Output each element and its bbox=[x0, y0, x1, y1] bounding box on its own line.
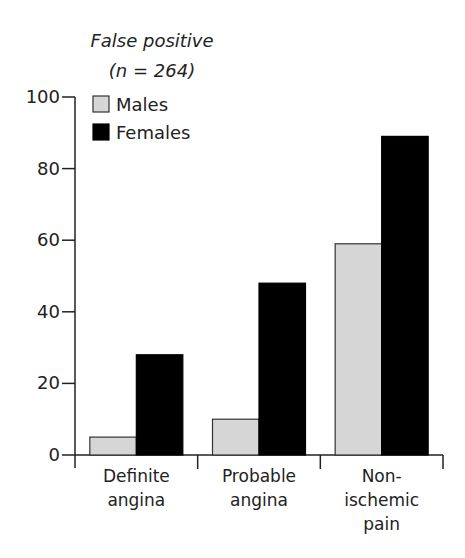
y-axis: 020406080100 bbox=[26, 86, 75, 468]
bar-females-0 bbox=[136, 355, 183, 455]
y-tick-label: 0 bbox=[49, 444, 60, 465]
y-tick-label: 80 bbox=[37, 158, 60, 179]
y-tick-label: 60 bbox=[37, 229, 60, 250]
x-axis: DefiniteanginaProbableanginaNon-ischemic… bbox=[75, 455, 443, 534]
x-category-label: Probable bbox=[222, 466, 296, 486]
bars bbox=[90, 136, 428, 455]
legend-label-males: Males bbox=[116, 94, 168, 115]
y-tick-label: 100 bbox=[26, 86, 60, 107]
bar-males-0 bbox=[90, 437, 137, 455]
legend-swatch-males bbox=[93, 96, 109, 112]
x-category-label: Definite bbox=[103, 466, 170, 486]
x-category-label: ischemic bbox=[344, 490, 419, 510]
x-category-label: pain bbox=[363, 514, 400, 534]
chart-subtitle-text: (n = 264) bbox=[109, 60, 195, 81]
legend-label-females: Females bbox=[116, 122, 190, 143]
x-category-label: angina bbox=[107, 490, 165, 510]
bar-females-2 bbox=[382, 136, 429, 455]
bar-males-2 bbox=[335, 244, 382, 455]
x-category-label: angina bbox=[230, 490, 288, 510]
legend-swatch-females bbox=[93, 124, 109, 140]
bar-males-1 bbox=[213, 419, 260, 455]
x-category-label: Non- bbox=[362, 466, 402, 486]
chart-title: False positive (n = 264) bbox=[90, 30, 213, 81]
chart-title-text: False positive bbox=[90, 30, 213, 51]
y-tick-label: 20 bbox=[37, 372, 60, 393]
bar-chart: False positive (n = 264) 020406080100 De… bbox=[0, 0, 465, 558]
y-tick-label: 40 bbox=[37, 301, 60, 322]
bar-females-1 bbox=[259, 283, 306, 455]
legend: MalesFemales bbox=[93, 94, 190, 143]
